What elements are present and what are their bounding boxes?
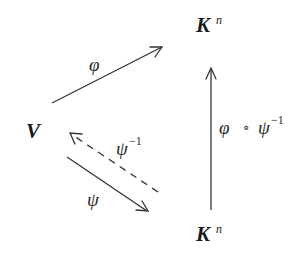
node-kn-top: K n: [195, 13, 222, 37]
node-kn-bottom-exponent: n: [216, 222, 222, 236]
edge-phi-line: [52, 47, 162, 103]
node-kn-bottom-base: K: [195, 222, 212, 246]
edge-psi: ψ: [67, 157, 148, 211]
edge-composite: φ ∘ ψ −1: [206, 68, 284, 210]
edge-composite-label-phi: φ: [219, 117, 230, 138]
edge-phi-label: φ: [89, 54, 100, 75]
edge-psi-label: ψ: [87, 189, 100, 210]
edge-psi-inverse-line: [71, 134, 158, 192]
arrowhead-icon: [70, 133, 82, 144]
node-v: V: [26, 119, 42, 143]
node-kn-top-exponent: n: [216, 13, 222, 27]
commutative-diagram: V K n K n φ ψ −1 ψ φ ∘ ψ −1: [0, 0, 297, 259]
edge-composite-label-exponent: −1: [271, 113, 284, 127]
node-kn-top-base: K: [195, 13, 212, 37]
node-kn-bottom: K n: [195, 222, 222, 246]
edge-psi-inverse-exponent: −1: [129, 134, 142, 148]
edge-psi-inverse-label: ψ: [116, 138, 129, 159]
edge-phi: φ: [52, 47, 162, 103]
edge-composite-label-compose: ∘: [243, 120, 250, 135]
arrowhead-icon: [136, 201, 148, 211]
edge-composite-label-psi: ψ: [258, 117, 271, 138]
edge-psi-inverse: ψ −1: [70, 133, 158, 192]
edge-psi-line: [67, 157, 147, 211]
node-v-label: V: [26, 119, 42, 143]
